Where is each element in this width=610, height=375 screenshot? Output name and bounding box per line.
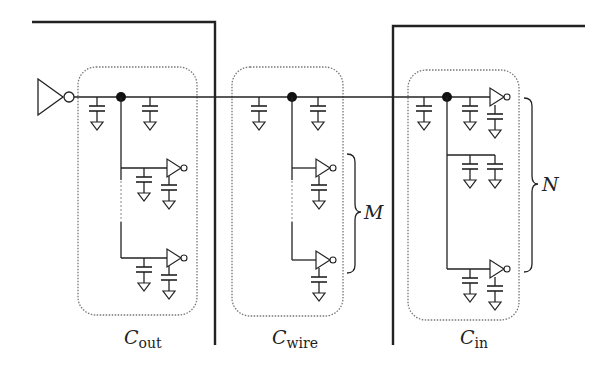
- fanout-inverter-icon: [316, 251, 336, 269]
- label-cin: Cin: [460, 326, 488, 351]
- brace-m: M: [347, 154, 384, 273]
- capacitor-ground-icon: [487, 105, 503, 138]
- capacitor-ground-icon: [462, 269, 478, 302]
- fanout-inverter-icon: [316, 159, 336, 177]
- group-box-cwire: [232, 67, 343, 316]
- circuit-diagram: M N Cout Cwire Cin: [0, 0, 610, 375]
- capacitor-ground-icon: [462, 155, 478, 188]
- label-cout: Cout: [124, 326, 162, 351]
- fanout-inverter-icon: [490, 88, 510, 106]
- capacitor-ground-icon: [310, 97, 326, 130]
- label-cwire: Cwire: [272, 326, 318, 351]
- brace-label-n: N: [541, 173, 560, 195]
- capacitor-ground-icon: [311, 176, 327, 209]
- capacitor-ground-icon: [136, 168, 152, 201]
- capacitor-ground-icon: [487, 277, 503, 310]
- driver-inverter-icon: [38, 79, 74, 115]
- fanout-inverter-icon: [167, 249, 187, 267]
- brace-n: N: [524, 98, 560, 272]
- capacitor-ground-icon: [251, 97, 267, 130]
- fanout-inverter-icon: [490, 260, 510, 278]
- capacitor-ground-icon: [89, 97, 105, 130]
- cout-circuit: [89, 92, 187, 299]
- cwire-circuit: [251, 92, 336, 301]
- capacitor-ground-icon: [161, 266, 177, 299]
- cin-circuit: [416, 88, 510, 310]
- capacitor-ground-icon: [311, 268, 327, 301]
- partition-left: [32, 22, 215, 345]
- capacitor-ground-icon: [136, 258, 152, 291]
- group-box-cout: [78, 67, 197, 315]
- capacitor-ground-icon: [487, 155, 503, 188]
- fanout-inverter-icon: [167, 159, 187, 177]
- brace-label-m: M: [363, 201, 384, 223]
- capacitor-ground-icon: [161, 176, 177, 209]
- capacitor-ground-icon: [462, 97, 478, 130]
- capacitor-ground-icon: [416, 97, 432, 130]
- capacitor-ground-icon: [142, 97, 158, 130]
